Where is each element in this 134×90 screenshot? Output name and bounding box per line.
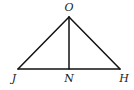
label-J: J — [10, 72, 17, 85]
segment-OJ — [18, 17, 69, 69]
label-H: H — [118, 72, 129, 85]
label-N: N — [63, 72, 74, 85]
segment-OH — [69, 17, 120, 69]
triangle-diagram: O J N H — [0, 0, 134, 90]
label-O: O — [64, 1, 73, 14]
